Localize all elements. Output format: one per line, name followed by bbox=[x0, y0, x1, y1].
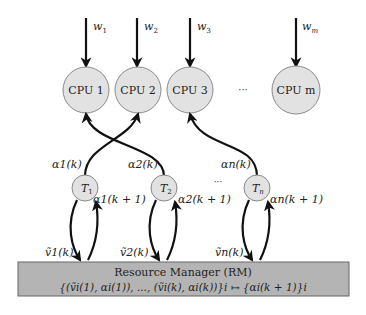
v-k-label-1: ṽ1(k) bbox=[45, 246, 73, 259]
task-node-n: Tn bbox=[244, 175, 270, 201]
cpu-node-1: CPU 1 bbox=[63, 67, 109, 113]
alpha-next-label-1: α1(k + 1) bbox=[93, 193, 146, 206]
rm-mapping: {(ṽi(1), αi(1)), ..., (ṽi(k), αi(k))}i ↦… bbox=[59, 281, 307, 294]
alpha-k-label-2: α2(k) bbox=[128, 158, 158, 171]
workload-label-2: w2 bbox=[144, 20, 158, 35]
resource-allocation-diagram: w1 w2 w3 wm CPU 1 CPU 2 CPU 3 ··· CPU m … bbox=[0, 0, 366, 315]
task-ellipsis: ··· bbox=[214, 177, 223, 187]
cpu-label: CPU 3 bbox=[172, 84, 207, 97]
arrow-rm-tn-icon bbox=[260, 202, 269, 260]
workload-label-1: w1 bbox=[93, 20, 107, 35]
cpu-node-2: CPU 2 bbox=[115, 67, 161, 113]
cpu-ellipsis: ··· bbox=[238, 84, 248, 95]
workload-label-m: wm bbox=[302, 20, 318, 35]
workload-label-3: w3 bbox=[197, 20, 211, 35]
v-k-label-n: ṽn(k) bbox=[215, 246, 244, 259]
cpu-node-3: CPU 3 bbox=[167, 67, 213, 113]
resource-manager-box: Resource Manager (RM) {(ṽi(1), αi(1)), .… bbox=[18, 262, 349, 296]
workload-labels: w1 w2 w3 wm bbox=[93, 20, 318, 35]
cpu-label: CPU 2 bbox=[120, 84, 155, 97]
workload-arrows bbox=[86, 18, 296, 66]
cpu-node-m: CPU m bbox=[272, 66, 320, 114]
cpu-label: CPU 1 bbox=[68, 84, 103, 97]
arrow-rm-t1-icon bbox=[88, 202, 97, 260]
alpha-next-label-2: α2(k + 1) bbox=[178, 193, 231, 206]
alpha-k-label-1: α1(k) bbox=[52, 158, 82, 171]
arrow-tn-rm-icon bbox=[243, 200, 252, 260]
cpu-nodes: CPU 1 CPU 2 CPU 3 ··· CPU m bbox=[63, 66, 320, 114]
alpha-k-label-n: αn(k) bbox=[221, 158, 251, 171]
cpu-label: CPU m bbox=[277, 84, 316, 97]
alpha-next-label-n: αn(k + 1) bbox=[270, 193, 323, 206]
rm-title: Resource Manager (RM) bbox=[114, 266, 251, 279]
arrow-t2-rm-icon bbox=[150, 200, 159, 260]
v-k-label-2: ṽ2(k) bbox=[120, 246, 148, 259]
diagram-svg: w1 w2 w3 wm CPU 1 CPU 2 CPU 3 ··· CPU m … bbox=[0, 0, 366, 315]
arrow-rm-t2-icon bbox=[167, 202, 176, 260]
task-node-2: T2 bbox=[151, 175, 177, 201]
